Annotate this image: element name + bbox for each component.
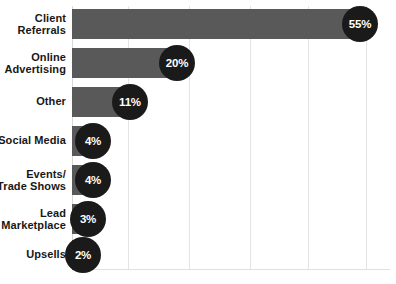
bar-row: Client Referrals 55% xyxy=(0,9,396,39)
value-badge-other: 11% xyxy=(112,84,148,120)
bar-client-referrals[interactable] xyxy=(72,9,360,39)
category-label-upsells: Upsells xyxy=(0,249,66,261)
category-label-other: Other xyxy=(0,96,66,108)
value-badge-online-advertising: 20% xyxy=(159,45,195,81)
value-badge-lead-marketplace: 3% xyxy=(70,201,106,237)
bar-row: Social Media 4% xyxy=(0,126,396,156)
category-label-lead-marketplace: Lead Marketplace xyxy=(0,208,66,231)
horizontal-bar-chart: Client Referrals 55% Online Advertising … xyxy=(0,0,396,284)
value-badge-social-media: 4% xyxy=(75,123,111,159)
category-label-online-advertising: Online Advertising xyxy=(0,52,66,75)
value-badge-upsells: 2% xyxy=(65,237,101,273)
category-label-social-media: Social Media xyxy=(0,135,66,147)
value-badge-client-referrals: 55% xyxy=(342,6,378,42)
bar-row: Other 11% xyxy=(0,87,396,117)
value-badge-events-trade-shows: 4% xyxy=(75,162,111,198)
bar-row: Events/ Trade Shows 4% xyxy=(0,165,396,195)
category-label-client-referrals: Client Referrals xyxy=(0,13,66,36)
category-label-events-trade-shows: Events/ Trade Shows xyxy=(0,169,66,192)
bar-row: Lead Marketplace 3% xyxy=(0,204,396,234)
bar-row: Online Advertising 20% xyxy=(0,48,396,78)
bar-row: Upsells 2% xyxy=(0,240,396,270)
